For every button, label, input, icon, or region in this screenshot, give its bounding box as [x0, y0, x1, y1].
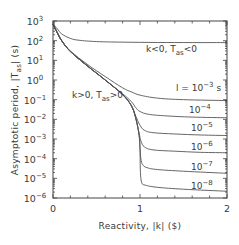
- y-axis-label-tail: | (s): [10, 45, 20, 64]
- y-tick-label: 10−4: [24, 153, 47, 165]
- x-tick-0: 0: [50, 203, 56, 214]
- y-tick-label: 101: [27, 54, 44, 66]
- y-tick-label: 10−3: [24, 133, 46, 145]
- y-tick-label: 10−6: [24, 192, 47, 204]
- annotation-l-1e-6: 10−6: [191, 140, 213, 152]
- annot-1e-8-base: 10: [191, 181, 203, 191]
- x-axis-label: Reactivity, |k| ($): [99, 221, 182, 231]
- annotation-l-1e-5: 10−5: [191, 121, 213, 133]
- annot-1e-4-exp: −4: [200, 103, 211, 111]
- period-vs-reactivity-chart: 10310210110010−110−210−310−410−510−6 0 1…: [0, 0, 239, 245]
- curve-k-0-t-as-0: [53, 24, 227, 43]
- annot-1e-8-exp: −8: [202, 179, 212, 187]
- x-tick-2: 2: [224, 203, 230, 214]
- x-tick-labels: 0 1 2: [50, 203, 230, 214]
- annot-pos-prefix: k>0, T: [72, 90, 102, 100]
- y-tick-label: 102: [27, 35, 44, 47]
- y-axis-label-sub: as: [15, 64, 23, 73]
- y-tick-label: 10−2: [24, 113, 46, 125]
- annot-1e-4-base: 10: [189, 105, 201, 115]
- annot-1e-7-exp: −7: [202, 160, 212, 168]
- annot-1e-6-exp: −6: [202, 140, 213, 148]
- annotation-l-1e-7: 10−7: [191, 160, 213, 172]
- annot-l-exp: −3: [203, 81, 213, 89]
- annot-neg-prefix: k<0, T: [146, 44, 176, 54]
- annotation-l-1e-3: l = 10−3 s: [176, 81, 221, 93]
- annot-l-unit: s: [214, 83, 222, 93]
- annotation-negative-reactivity: k<0, Tas<0: [146, 44, 197, 57]
- annot-1e-5-exp: −5: [202, 121, 212, 129]
- y-tick-label: 10−5: [24, 172, 46, 184]
- annot-pos-suffix: >0: [110, 90, 124, 100]
- x-tick-1: 1: [137, 203, 143, 214]
- y-tick-label: 103: [27, 15, 44, 27]
- annotation-positive-reactivity: k>0, Tas>0: [72, 90, 123, 103]
- annot-1e-5-base: 10: [191, 123, 203, 133]
- y-tick-label: 100: [27, 74, 44, 86]
- y-tick-labels: 10310210110010−110−210−310−410−510−6: [24, 15, 47, 204]
- annot-l-prefix: l = 10: [176, 83, 203, 93]
- annot-1e-7-base: 10: [191, 162, 203, 172]
- curve-l-1e-5-s: [53, 24, 227, 135]
- annot-1e-6-base: 10: [191, 142, 203, 152]
- y-tick-label: 10−1: [24, 94, 46, 106]
- annotation-l-1e-4: 10−4: [189, 103, 211, 115]
- annotation-l-1e-8: 10−8: [191, 179, 213, 191]
- y-axis-label: Asymptotic period, |Tas| (s): [10, 45, 23, 175]
- y-axis-label-main: Asymptotic period, |T: [10, 72, 20, 175]
- annot-neg-suffix: <0: [184, 44, 198, 54]
